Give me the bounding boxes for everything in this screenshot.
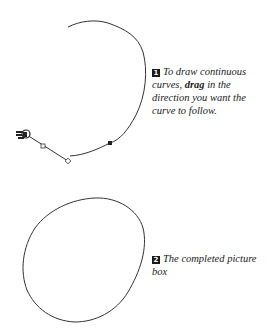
step-2-caption: 2The completed picture box [152,252,262,278]
control-handle [27,135,68,161]
step-number-badge: 1 [152,69,160,77]
caption-text: The completed picture box [152,253,257,277]
step-1-caption: 1To draw continuous curves, drag in the … [152,65,268,117]
anchor-point-icon [108,141,112,145]
step-number-badge: 2 [152,256,160,264]
completed-picture-box [23,198,144,322]
drawing-curve [68,21,146,156]
pointing-hand-cursor-icon [16,130,30,139]
bezier-drawing-figure [0,0,268,332]
handle-point-icon [41,144,45,148]
caption-bold-text: drag [185,79,205,90]
handle-point-icon [65,158,71,164]
